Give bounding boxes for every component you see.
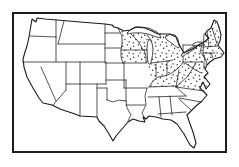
figure-panel	[0, 0, 239, 167]
us-range-map	[0, 0, 239, 167]
